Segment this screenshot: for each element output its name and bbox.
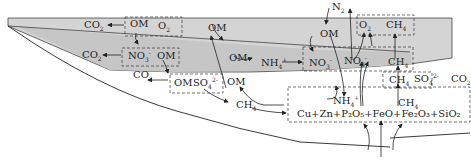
co2-label: CO2: [451, 74, 471, 84]
sulfate-label: SO42-: [414, 74, 439, 84]
co2-label: CO2: [84, 20, 104, 30]
methane-label: CH4: [386, 20, 406, 30]
om-label: OM: [130, 19, 148, 29]
methane-label: CH4: [398, 98, 418, 108]
mineral-composition-label: Cu+Zn+P₂O₅+FeO+Fe₂O₃+SiO₂: [297, 109, 461, 119]
methane-label: CH4: [236, 100, 256, 110]
methane-label: CH4: [389, 75, 409, 85]
o2-label: O2: [359, 20, 371, 30]
nitrate-label: NO3-: [344, 56, 367, 66]
om-label: OM: [227, 77, 245, 87]
methane-label: CH4: [388, 57, 408, 67]
ammonium-label: NH4+: [333, 96, 359, 106]
sulfate-label: SO42-: [193, 78, 218, 88]
nitrate-label: NO3-: [309, 58, 332, 68]
om-label: OM: [229, 53, 247, 63]
n2-label: N2: [332, 2, 345, 12]
nitrate-label: NO3-: [128, 51, 151, 61]
co2-label: CO2: [133, 70, 153, 80]
om-label: OM: [208, 23, 226, 33]
o2-label: O2: [158, 21, 170, 31]
biogeochemical-diagram: CO2 OM O2 OM CO2 NO3- OM OM NH4+ N2 OM O…: [0, 0, 471, 167]
om-label: OM: [174, 78, 192, 88]
om-label: OM: [320, 29, 338, 39]
ammonium-label: NH4+: [261, 58, 287, 68]
co2-label: CO2: [82, 50, 102, 60]
om-label: OM: [157, 51, 175, 61]
